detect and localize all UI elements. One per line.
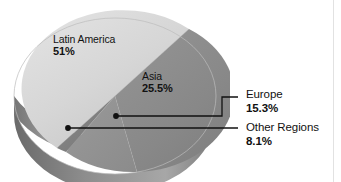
callout-label-other-regions: Other Regions 8.1%: [246, 121, 319, 149]
slice-label-asia-value: 25.5%: [142, 82, 173, 95]
slice-label-latin-america-name: Latin America: [53, 33, 115, 45]
callout-label-other-regions-value: 8.1%: [246, 135, 319, 149]
callout-label-other-regions-name: Other Regions: [246, 121, 319, 135]
slice-label-latin-america-value: 51%: [53, 45, 115, 58]
pie-svg: [0, 0, 230, 182]
pie-chart-figure: Latin America 51% Asia 25.5% Europe 15.3…: [0, 0, 341, 182]
callout-label-europe-name: Europe: [246, 88, 282, 102]
slice-label-latin-america: Latin America 51%: [53, 33, 115, 58]
slice-label-asia-name: Asia: [142, 70, 173, 82]
callout-label-europe-value: 15.3%: [246, 102, 282, 116]
right-edge-rule: [333, 0, 334, 182]
pie-face: [14, 10, 230, 174]
slice-label-asia: Asia 25.5%: [142, 70, 173, 95]
callout-label-europe: Europe 15.3%: [246, 88, 282, 116]
pie-chart-graphic: [0, 0, 230, 182]
